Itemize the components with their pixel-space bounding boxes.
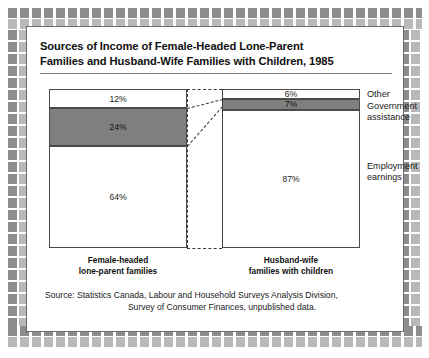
chart-figure: Sources of Income of Female-Headed Lone-… [0, 0, 429, 358]
legend-text-employment-line-2: earnings [367, 172, 418, 183]
legend-text-government-line-2: assistance [367, 112, 417, 123]
legend-label-government-assistance: Government assistance [367, 101, 417, 123]
connector-dash-right-vertical [222, 89, 223, 248]
legend-label-employment-earnings: Employment earnings [367, 161, 418, 183]
segment-employment-right: 87% [222, 110, 360, 248]
connector-dash-top [187, 89, 222, 90]
legend-text-employment-line-1: Employment [367, 161, 418, 172]
category-label-husband-wife: Husband-wife families with children [216, 255, 366, 277]
segment-government-right: 7% [222, 99, 360, 110]
segment-other-right: 6% [222, 89, 360, 99]
connector-dash-government-bottom [187, 107, 223, 147]
segment-government-left: 24% [49, 108, 187, 146]
legend-text-other: Other [367, 89, 390, 99]
segment-employment-left: 64% [49, 146, 187, 248]
category-label-husband-wife-line-1: Husband-wife [216, 255, 366, 266]
bar-female-headed-lone-parent: 12% 24% 64% [49, 89, 187, 248]
legend-text-government-line-1: Government [367, 101, 417, 112]
category-label-female-headed-line-1: Female-headed [43, 255, 193, 266]
segment-other-left: 12% [49, 89, 187, 108]
segment-label-government-right: 7% [285, 99, 297, 109]
legend-label-other: Other [367, 89, 390, 100]
bar-husband-wife-families: 6% 7% 87% [222, 89, 360, 248]
plot-area: 12% 24% 64% 6% 7% 87% [27, 27, 405, 333]
category-label-husband-wife-line-2: families with children [216, 266, 366, 277]
segment-label-government-left: 24% [109, 122, 126, 132]
source-note-line-1: Source: Statistics Canada, Labour and Ho… [41, 289, 393, 301]
segment-label-employment-left: 64% [109, 192, 126, 202]
segment-label-other-right: 6% [285, 89, 297, 99]
connector-dash-left-vertical [187, 89, 188, 248]
source-note: Source: Statistics Canada, Labour and Ho… [41, 289, 393, 314]
chart-panel: Sources of Income of Female-Headed Lone-… [26, 26, 404, 332]
source-note-line-2: Survey of Consumer Finances, unpublished… [41, 301, 393, 313]
segment-label-employment-right: 87% [282, 174, 299, 184]
segment-label-other-left: 12% [109, 94, 126, 104]
category-label-female-headed: Female-headed lone-parent families [43, 255, 193, 277]
connector-dash-bottom [187, 248, 222, 249]
connector-dash-government-top [187, 99, 223, 109]
category-label-female-headed-line-2: lone-parent families [43, 266, 193, 277]
